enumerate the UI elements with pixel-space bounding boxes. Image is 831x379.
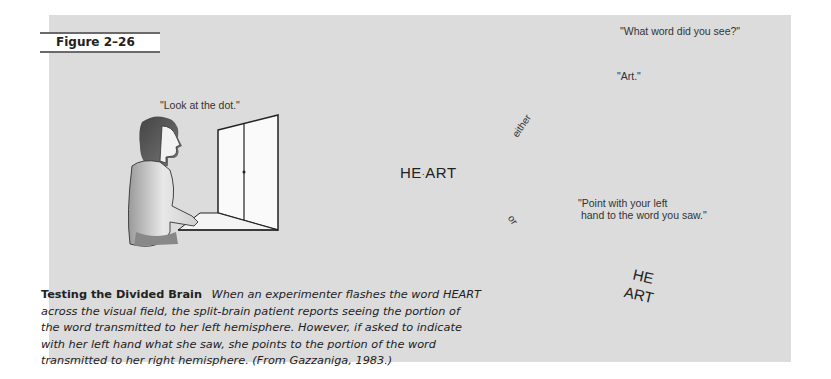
flashed-word-left: HE	[400, 164, 422, 181]
flashed-word: HE·ART	[400, 164, 457, 181]
quote-point-left-hand: "Point with your left hand to the word y…	[578, 197, 707, 221]
scene-look-at-dot	[128, 115, 278, 246]
quote-look-at-dot: "Look at the dot."	[160, 99, 240, 111]
quote-what-word: "What word did you see?"	[620, 25, 740, 37]
figure-caption: Testing the Divided Brain When an experi…	[41, 287, 481, 370]
flashed-word-right: ART	[425, 164, 456, 181]
quote-answer-art: "Art."	[617, 70, 641, 82]
caption-title: Testing the Divided Brain	[41, 288, 202, 301]
